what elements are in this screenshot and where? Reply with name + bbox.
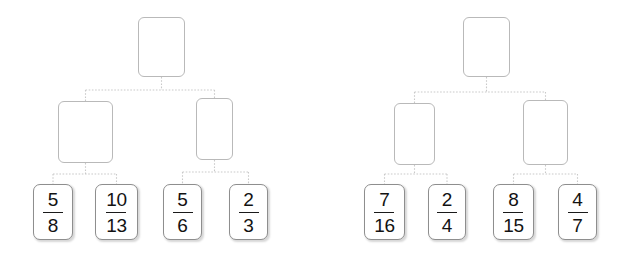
- right-tree-leaf-card-3[interactable]: 8 15: [493, 184, 534, 240]
- fraction: 5 6: [173, 190, 193, 235]
- right-tree-internal-node-1[interactable]: [394, 103, 435, 165]
- fraction: 2 4: [437, 190, 457, 235]
- right-tree-root-node[interactable]: [463, 17, 510, 77]
- right-tree-leaf-card-4[interactable]: 4 7: [558, 184, 597, 240]
- fraction-denominator: 3: [243, 215, 253, 235]
- fraction-denominator: 6: [177, 215, 187, 235]
- fraction-numerator: 8: [508, 190, 518, 211]
- fraction: 7 16: [374, 190, 395, 235]
- left-tree-internal-node-2[interactable]: [196, 98, 233, 160]
- fraction-numerator: 7: [379, 190, 389, 211]
- fraction-bar: [374, 212, 394, 213]
- diagram-canvas: 5 8 10 13 5 6 2 3 7 16: [0, 0, 631, 257]
- fraction-numerator: 10: [106, 190, 127, 211]
- fraction-numerator: 5: [177, 190, 187, 211]
- left-tree-root-node[interactable]: [138, 17, 185, 77]
- fraction: 10 13: [106, 190, 127, 235]
- fraction-bar: [43, 212, 63, 213]
- fraction-bar: [239, 212, 259, 213]
- fraction: 5 8: [43, 190, 63, 235]
- fraction-bar: [503, 212, 523, 213]
- fraction-bar: [106, 212, 126, 213]
- fraction-denominator: 13: [106, 215, 127, 235]
- right-tree-leaf-card-1[interactable]: 7 16: [364, 184, 405, 240]
- left-tree-leaf-card-2[interactable]: 10 13: [95, 184, 138, 240]
- fraction: 4 7: [568, 190, 588, 235]
- fraction-denominator: 16: [374, 215, 395, 235]
- left-tree-leaf-card-3[interactable]: 5 6: [163, 184, 202, 240]
- fraction: 2 3: [239, 190, 259, 235]
- fraction-denominator: 4: [442, 215, 452, 235]
- fraction-numerator: 2: [243, 190, 253, 211]
- left-tree-leaf-card-1[interactable]: 5 8: [33, 184, 73, 240]
- fraction-bar: [568, 212, 588, 213]
- left-tree-leaf-card-4[interactable]: 2 3: [229, 184, 268, 240]
- fraction-bar: [173, 212, 193, 213]
- right-tree-internal-node-2[interactable]: [523, 100, 568, 165]
- fraction-denominator: 15: [503, 215, 524, 235]
- fraction: 8 15: [503, 190, 524, 235]
- fraction-denominator: 7: [572, 215, 582, 235]
- fraction-numerator: 4: [572, 190, 582, 211]
- left-tree-internal-node-1[interactable]: [58, 101, 113, 163]
- fraction-denominator: 8: [48, 215, 58, 235]
- right-tree-leaf-card-2[interactable]: 2 4: [428, 184, 466, 240]
- fraction-numerator: 5: [48, 190, 58, 211]
- fraction-numerator: 2: [442, 190, 452, 211]
- fraction-bar: [437, 212, 457, 213]
